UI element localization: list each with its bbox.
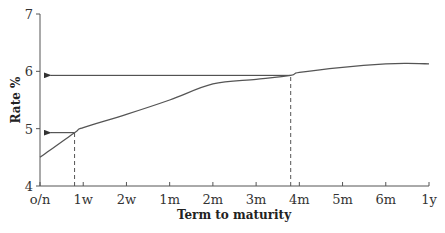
x-axis-title: Term to maturity — [177, 208, 292, 222]
annotations — [51, 75, 291, 186]
yield-curve-chart: 4567o/n1w2w1m2m3m4m5m6m1y Term to maturi… — [0, 0, 445, 233]
x-tick-label: 1y — [421, 192, 437, 207]
x-tick-label: 1w — [74, 192, 93, 207]
axes: 4567o/n1w2w1m2m3m4m5m6m1y — [25, 7, 438, 207]
x-tick-label: 2w — [117, 192, 136, 207]
x-tick-label: 1m — [159, 192, 180, 207]
yield-curve-line — [40, 63, 429, 157]
x-tick-label: 2m — [203, 192, 224, 207]
x-tick-label: o/n — [30, 192, 51, 207]
x-tick-label: 3m — [246, 192, 267, 207]
x-tick-label: 6m — [375, 192, 396, 207]
y-tick-label: 6 — [25, 64, 33, 79]
y-tick-label: 7 — [25, 7, 33, 22]
y-tick-label: 5 — [25, 122, 33, 137]
y-axis-title: Rate % — [9, 76, 23, 123]
x-tick-label: 4m — [289, 192, 310, 207]
x-tick-label: 5m — [332, 192, 353, 207]
series — [40, 63, 429, 157]
